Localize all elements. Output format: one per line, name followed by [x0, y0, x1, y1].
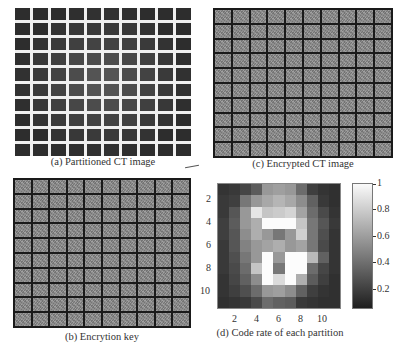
heatmap-cell: [285, 263, 296, 274]
heatmap-cell: [318, 195, 329, 206]
heatmap-cell: [307, 207, 318, 218]
heatmap-cell: [262, 263, 273, 274]
heatmap-cell: [307, 184, 318, 195]
heatmap-cell: [240, 252, 251, 263]
heatmap-cell: [329, 263, 340, 274]
colorbar-tick: 1: [377, 177, 382, 188]
heatmap-cell: [296, 218, 307, 229]
heatmap-cell: [218, 240, 229, 251]
heatmap-cell: [251, 297, 262, 308]
heatmap-cell: [273, 229, 284, 240]
heatmap-cell: [240, 240, 251, 251]
heatmap-cell: [240, 297, 251, 308]
heatmap-cell: [240, 207, 251, 218]
heatmap-cell: [329, 240, 340, 251]
heatmap-cell: [318, 252, 329, 263]
heatmap-cell: [262, 252, 273, 263]
heatmap-cell: [240, 274, 251, 285]
heatmap-cell: [318, 263, 329, 274]
heatmap-cell: [318, 218, 329, 229]
heatmap-cell: [285, 207, 296, 218]
heatmap-cell: [229, 218, 240, 229]
heatmap-cell: [296, 274, 307, 285]
heatmap-cell: [229, 252, 240, 263]
heatmap-cell: [218, 297, 229, 308]
y-tick: 10: [200, 285, 210, 296]
heatmap-cell: [229, 184, 240, 195]
heatmap-cell: [240, 229, 251, 240]
heatmap-cell: [251, 274, 262, 285]
heatmap-cell: [296, 297, 307, 308]
heatmap-cell: [307, 229, 318, 240]
heatmap-cell: [218, 207, 229, 218]
heatmap-cell: [229, 285, 240, 296]
heatmap-cell: [285, 184, 296, 195]
colorbar-tick: 0.2: [377, 283, 390, 294]
heatmap-cell: [273, 218, 284, 229]
heatmap-cell: [307, 297, 318, 308]
heatmap-cell: [251, 240, 262, 251]
heatmap-cell: [307, 252, 318, 263]
heatmap-cell: [318, 285, 329, 296]
heatmap-cell: [251, 263, 262, 274]
heatmap-cell: [218, 252, 229, 263]
heatmap-cell: [273, 195, 284, 206]
heatmap-cell: [218, 263, 229, 274]
colorbar-tick-mark: [373, 289, 376, 290]
y-tick: 6: [206, 239, 211, 250]
colorbar-tick: 0.4: [377, 256, 390, 267]
y-tick: 4: [206, 216, 211, 227]
heatmap-cell: [229, 263, 240, 274]
colorbar-tick: 0.8: [377, 203, 390, 214]
heatmap-cell: [307, 195, 318, 206]
heatmap-cell: [307, 240, 318, 251]
heatmap-cell: [296, 285, 307, 296]
heatmap-cell: [251, 195, 262, 206]
heatmap-cell: [229, 297, 240, 308]
heatmap-cell: [273, 252, 284, 263]
heatmap-cell: [285, 274, 296, 285]
heatmap-cell: [229, 207, 240, 218]
x-tick: 10: [317, 313, 327, 324]
heatmap-cell: [262, 285, 273, 296]
colorbar-tick: 0.6: [377, 230, 390, 241]
y-tick: 2: [206, 193, 211, 204]
heatmap-cell: [329, 207, 340, 218]
heatmap-cell: [273, 207, 284, 218]
heatmap-cell: [296, 263, 307, 274]
heatmap-cell: [240, 195, 251, 206]
heatmap-cell: [251, 229, 262, 240]
heatmap-cell: [240, 184, 251, 195]
heatmap-cell: [296, 195, 307, 206]
caption-d: (d) Code rate of each partition: [205, 327, 355, 338]
heatmap-cell: [273, 263, 284, 274]
heatmap-cell: [318, 297, 329, 308]
heatmap-cell: [251, 285, 262, 296]
heatmap-cell: [218, 195, 229, 206]
heatmap-cell: [296, 240, 307, 251]
x-tick: 2: [232, 313, 237, 324]
heatmap-cell: [296, 184, 307, 195]
heatmap-cell: [307, 263, 318, 274]
heatmap-cell: [285, 240, 296, 251]
heatmap-cell: [285, 195, 296, 206]
heatmap-cell: [318, 184, 329, 195]
heatmap-cell: [240, 285, 251, 296]
heatmap-cell: [240, 263, 251, 274]
x-tick: 6: [276, 313, 281, 324]
heatmap-cell: [262, 218, 273, 229]
heatmap-cell: [307, 218, 318, 229]
heatmap-cell: [285, 285, 296, 296]
x-tick: 8: [298, 313, 303, 324]
heatmap-cell: [329, 195, 340, 206]
heatmap-cell: [329, 285, 340, 296]
heatmap-cell: [262, 195, 273, 206]
heatmap-cell: [218, 218, 229, 229]
heatmap-cell: [218, 184, 229, 195]
heatmap-cell: [273, 274, 284, 285]
heatmap-cell: [329, 297, 340, 308]
heatmap-cell: [251, 184, 262, 195]
heatmap-cell: [273, 297, 284, 308]
y-tick: 8: [206, 262, 211, 273]
heatmap-cell: [285, 297, 296, 308]
